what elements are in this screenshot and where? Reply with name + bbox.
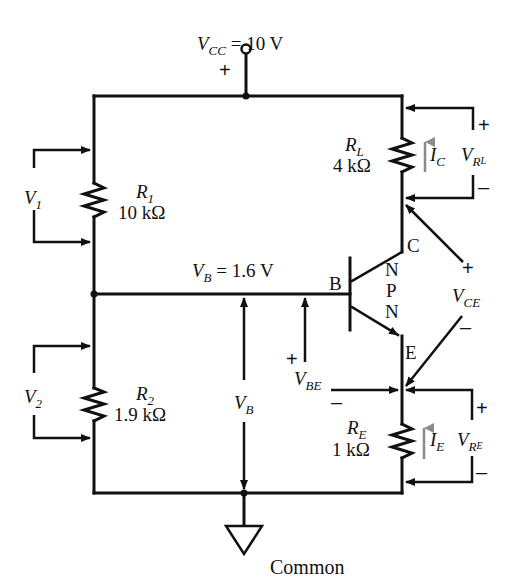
vre-bracket-top bbox=[406, 390, 472, 420]
ground-symbol bbox=[226, 493, 262, 554]
resistor-r2 bbox=[84, 388, 104, 421]
vce-label: VCE bbox=[452, 286, 480, 309]
collector-terminal-label: C bbox=[407, 236, 420, 255]
vce-symbol: V bbox=[452, 285, 464, 306]
vrl-plus-sign: + bbox=[478, 115, 490, 135]
vbe-plus-sign: + bbox=[286, 349, 298, 369]
v1-bracket-top bbox=[34, 150, 90, 168]
collector-branch bbox=[352, 96, 412, 281]
vce-minus-sign: – bbox=[460, 317, 471, 337]
ie-label: IE bbox=[430, 430, 444, 453]
ground-label: Common bbox=[270, 557, 344, 577]
r1-symbol: R bbox=[136, 181, 148, 202]
v2-subscript: 2 bbox=[36, 396, 43, 411]
vce-subscript: CE bbox=[464, 295, 481, 310]
v1-label: V1 bbox=[24, 188, 42, 211]
rl-value: 4 kΩ bbox=[333, 156, 371, 175]
circuit-diagram: VCC = 10 V + R1 10 kΩ V1 R2 1.9 kΩ V2 VB… bbox=[0, 0, 515, 587]
vre-bracket-bottom bbox=[406, 456, 472, 482]
vcc-value: = 10 V bbox=[231, 33, 284, 54]
vrl-subscript: R bbox=[473, 154, 481, 169]
ie-subscript: E bbox=[436, 439, 444, 454]
v1-bracket-bottom bbox=[34, 210, 90, 242]
vb-measure-label: VB bbox=[234, 393, 254, 416]
resistor-re bbox=[392, 424, 412, 458]
npn-letter-n1: N bbox=[385, 260, 399, 279]
vcc-plus-sign: + bbox=[219, 60, 231, 80]
vbe-subscript: BE bbox=[306, 378, 322, 393]
vb-node-value: = 1.6 V bbox=[216, 260, 273, 281]
vb-node-subscript: B bbox=[204, 270, 212, 285]
vcc-symbol: V bbox=[197, 33, 209, 54]
v2-bracket-top bbox=[34, 346, 90, 373]
v2-symbol: V bbox=[24, 386, 36, 407]
vrl-bracket-top bbox=[406, 108, 473, 130]
vre-label: VRE bbox=[457, 430, 483, 453]
v1-subscript: 1 bbox=[36, 197, 43, 212]
vrl-bracket-bottom bbox=[406, 175, 473, 198]
ic-subscript: C bbox=[436, 154, 445, 169]
vb-measure-symbol: V bbox=[234, 392, 246, 413]
re-symbol: R bbox=[347, 417, 359, 438]
vb-measure-subscript: B bbox=[246, 402, 254, 417]
vre-minus-sign: – bbox=[476, 462, 487, 482]
r2-value: 1.9 kΩ bbox=[114, 405, 166, 424]
rl-symbol: R bbox=[345, 134, 357, 155]
vbe-label: VBE bbox=[294, 369, 322, 392]
vcc-subscript: CC bbox=[209, 43, 226, 58]
vcc-label: VCC = 10 V bbox=[197, 34, 283, 57]
resistor-r1 bbox=[84, 183, 104, 217]
vrl-label: VRL bbox=[461, 145, 486, 168]
vce-plus-sign: + bbox=[462, 258, 474, 278]
re-name: RE bbox=[347, 418, 367, 441]
re-value: 1 kΩ bbox=[332, 440, 370, 459]
vre-plus-sign: + bbox=[476, 398, 488, 418]
vbe-minus-sign: – bbox=[331, 392, 342, 412]
emitter-terminal-label: E bbox=[405, 343, 417, 362]
vrl-subsubscript: L bbox=[481, 155, 487, 166]
circuit-schematic bbox=[0, 0, 515, 587]
vbe-symbol: V bbox=[294, 368, 306, 389]
v2-label: V2 bbox=[24, 387, 42, 410]
resistor-rl bbox=[392, 138, 412, 172]
base-terminal-label: B bbox=[329, 274, 342, 293]
ic-label: IC bbox=[430, 145, 445, 168]
r1-value: 10 kΩ bbox=[118, 203, 165, 222]
vb-node-label: VB = 1.6 V bbox=[192, 261, 274, 284]
vre-symbol: V bbox=[457, 429, 469, 450]
npn-letter-p: P bbox=[386, 281, 397, 300]
vre-subsubscript: E bbox=[477, 440, 483, 451]
vrl-symbol: V bbox=[461, 144, 473, 165]
vb-node-symbol: V bbox=[192, 260, 204, 281]
r2-symbol: R bbox=[136, 383, 148, 404]
vrl-minus-sign: – bbox=[478, 177, 489, 197]
npn-letter-n2: N bbox=[385, 302, 399, 321]
v1-symbol: V bbox=[24, 187, 36, 208]
v2-bracket-bottom bbox=[34, 415, 90, 438]
vre-subscript: R bbox=[469, 439, 477, 454]
